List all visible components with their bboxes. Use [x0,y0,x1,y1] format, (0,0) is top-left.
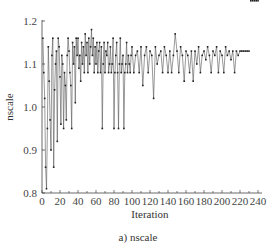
svg-text:240: 240 [250,195,267,207]
svg-text:1.1: 1.1 [23,58,37,70]
svg-text:120: 120 [142,195,159,207]
svg-text:100: 100 [124,195,141,207]
svg-text:180: 180 [196,195,213,207]
series-nscale [42,0,259,190]
y-axis-title: nscale [3,93,15,121]
axes [42,20,262,193]
svg-text:1.0: 1.0 [23,101,37,113]
chart: 0.80.91.01.11.2 020406080100120140160180… [0,0,276,251]
svg-text:0.8: 0.8 [23,187,37,199]
svg-text:1.2: 1.2 [23,15,37,27]
svg-text:140: 140 [160,195,177,207]
x-ticks: 020406080100120140160180200220240 [39,190,267,207]
svg-text:160: 160 [178,195,195,207]
svg-text:60: 60 [91,195,103,207]
svg-text:40: 40 [73,195,85,207]
svg-text:80: 80 [109,195,121,207]
svg-text:20: 20 [55,195,67,207]
x-axis-title: Iteration [131,208,169,220]
svg-text:0.9: 0.9 [23,144,37,156]
svg-text:0: 0 [39,195,45,207]
svg-text:200: 200 [214,195,231,207]
figure-caption: a) nscale [0,231,276,243]
svg-text:220: 220 [232,195,249,207]
